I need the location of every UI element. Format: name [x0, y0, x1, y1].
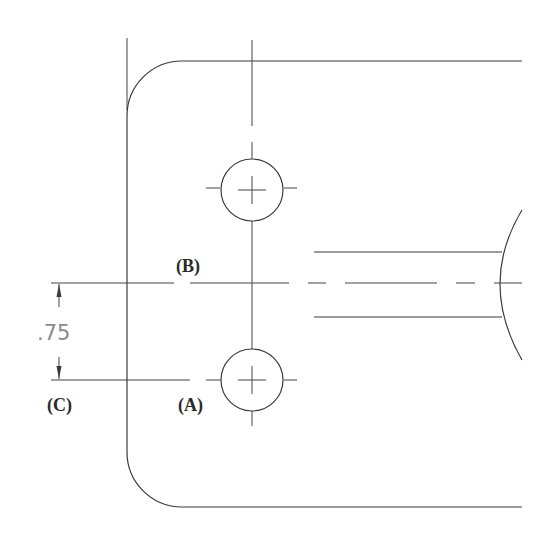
label-a: (A): [178, 395, 203, 416]
technical-drawing: .75 (B) (C) (A): [0, 0, 553, 538]
label-b: (B): [176, 256, 200, 277]
bore-arc: [500, 210, 522, 360]
dimension-value: .75: [37, 321, 70, 345]
label-c: (C): [47, 395, 72, 416]
part-outline: [127, 61, 522, 507]
dim-arrow-top-head: [57, 284, 62, 297]
dim-arrow-bottom-head: [57, 366, 62, 379]
